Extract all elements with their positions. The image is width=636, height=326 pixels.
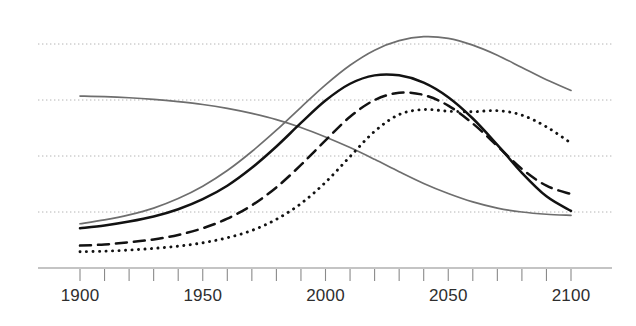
tick-label-1900: 1900 (61, 286, 100, 305)
series-black-solid-curve (80, 74, 571, 228)
series-black-dashed-curve (80, 92, 571, 245)
chart-canvas: 19001950200020502100 (0, 0, 636, 326)
series-peaking-gray-curve (80, 37, 571, 224)
tick-label-1950: 1950 (183, 286, 222, 305)
x-axis-tick-labels: 19001950200020502100 (61, 286, 591, 305)
series-declining-gray-curve (80, 96, 571, 215)
tick-label-2000: 2000 (306, 286, 345, 305)
series-lines (80, 37, 571, 252)
tick-label-2100: 2100 (552, 286, 591, 305)
series-black-dotted-curve (80, 109, 571, 251)
x-axis-ticks (80, 269, 571, 281)
tick-label-2050: 2050 (429, 286, 468, 305)
line-chart: 19001950200020502100 (0, 0, 636, 326)
